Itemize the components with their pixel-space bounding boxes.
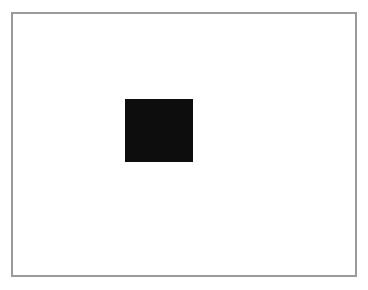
drawing-surface bbox=[13, 14, 355, 275]
figure-canvas bbox=[0, 0, 368, 290]
figure-frame-border bbox=[11, 12, 357, 277]
black-rectangle-shape bbox=[125, 99, 193, 162]
